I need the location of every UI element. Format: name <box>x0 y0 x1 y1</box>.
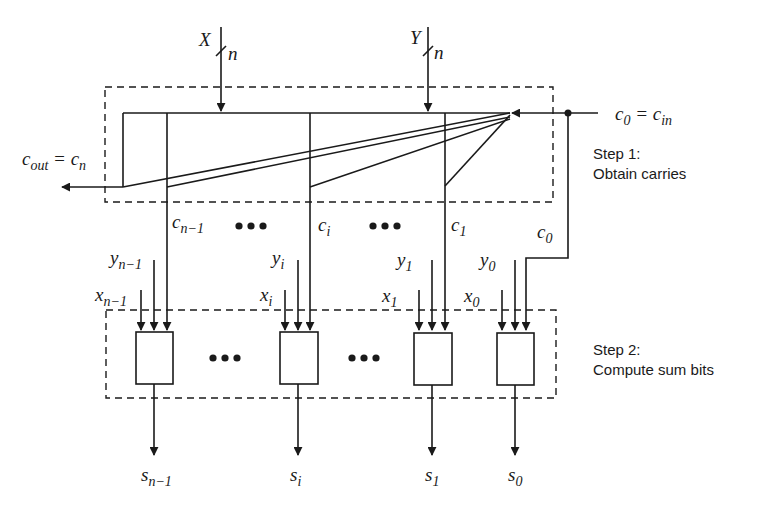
sum-label-i: si <box>290 465 301 489</box>
y-label-0: y0 <box>480 250 495 274</box>
sum-label-n-1: sn−1 <box>141 465 172 489</box>
x-label-0: x0 <box>464 286 479 310</box>
step1-boundary <box>105 87 553 202</box>
x-label-1: x1 <box>382 286 397 310</box>
carry-label-1: c1 <box>451 215 466 239</box>
carry-lookahead-adder-diagram: X n Y n c0 = cin cout = cn cn−1 ci c1 c0… <box>0 0 758 505</box>
carry-label-n-1: cn−1 <box>172 212 204 236</box>
step2-label: Step 2: Compute sum bits <box>593 340 714 380</box>
sum-cell-1 <box>414 333 452 385</box>
carry-out-label: cout = cn <box>22 149 86 173</box>
y-label-1: y1 <box>397 250 412 274</box>
sum-label-0: s0 <box>508 465 522 489</box>
sum-cell-i <box>280 332 318 384</box>
sum-label-1: s1 <box>425 465 439 489</box>
x-label-i: xi <box>260 285 272 309</box>
step1-desc: Obtain carries <box>593 164 686 184</box>
carry-in-label: c0 = cin <box>615 104 672 128</box>
step2-title: Step 2: <box>593 340 714 360</box>
y-label-n-1: yn−1 <box>110 248 142 272</box>
y-bus-label: Y <box>410 28 421 47</box>
carry-label-i: ci <box>318 215 330 239</box>
step1-title: Step 1: <box>593 144 686 164</box>
sum-cell-n-1 <box>136 332 173 384</box>
x-bus-label: X <box>199 30 211 49</box>
x-label-n-1: xn−1 <box>95 285 127 309</box>
step2-desc: Compute sum bits <box>593 360 714 380</box>
y-label-i: yi <box>272 248 284 272</box>
sum-cell-0 <box>497 333 534 385</box>
step1-label: Step 1: Obtain carries <box>593 144 686 184</box>
carry-label-0: c0 <box>537 222 552 246</box>
y-bus-width: n <box>434 43 444 62</box>
x-bus-width: n <box>228 44 238 63</box>
cin-junction-dot <box>565 110 572 117</box>
